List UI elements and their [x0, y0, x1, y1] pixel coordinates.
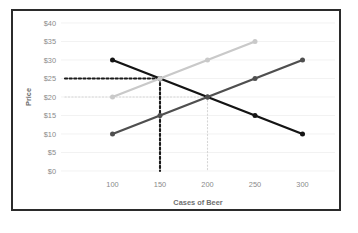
x-tick-label: 250	[249, 180, 261, 189]
y-tick-label: $0	[48, 167, 56, 176]
marker-supply-shifted	[110, 95, 115, 100]
marker-supply-shifted	[205, 58, 210, 63]
y-tick-label: $10	[44, 130, 56, 139]
marker-supply-original	[205, 95, 210, 100]
marker-supply-original	[110, 132, 115, 137]
marker-demand	[300, 132, 305, 137]
marker-supply-original	[300, 58, 305, 63]
chart-plot-area: $0$5$10$15$20$25$30$35$40 10015020025030…	[13, 11, 339, 209]
x-tick-label: 100	[106, 180, 118, 189]
chart-frame: $0$5$10$15$20$25$30$35$40 10015020025030…	[11, 9, 341, 211]
marker-supply-original	[253, 76, 258, 81]
y-tick-label: $30	[44, 56, 56, 65]
marker-supply-shifted	[158, 76, 163, 81]
y-axis-title: Price	[24, 88, 33, 106]
y-tick-label: $20	[44, 93, 56, 102]
x-tick-label: 300	[296, 180, 308, 189]
x-axis-title: Cases of Beer	[173, 198, 222, 207]
y-tick-label: $40	[44, 19, 56, 28]
y-tick-label: $15	[44, 111, 56, 120]
x-tick-label: 200	[201, 180, 213, 189]
y-axis-tick-labels: $0$5$10$15$20$25$30$35$40	[44, 19, 56, 176]
marker-supply-shifted	[253, 39, 258, 44]
y-tick-label: $35	[44, 37, 56, 46]
y-tick-label: $5	[48, 148, 56, 157]
supply-demand-chart: $0$5$10$15$20$25$30$35$40 10015020025030…	[13, 11, 339, 209]
marker-supply-original	[158, 113, 163, 118]
y-tick-label: $25	[44, 74, 56, 83]
x-axis-tick-labels: 100150200250300	[106, 180, 308, 189]
marker-demand	[253, 113, 258, 118]
marker-demand	[110, 58, 115, 63]
x-tick-label: 150	[154, 180, 166, 189]
